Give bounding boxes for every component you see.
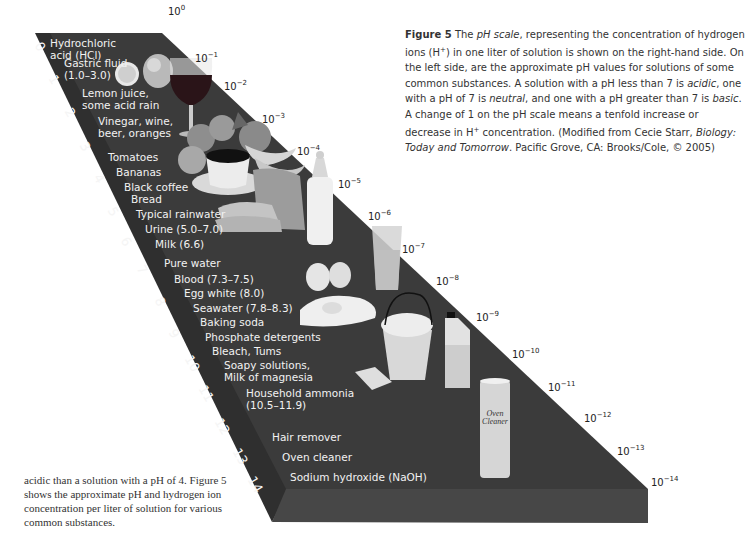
substance-label: Typical rainwater: [136, 208, 225, 220]
substance-label: Soapy solutions,Milk of magnesia: [224, 359, 313, 383]
figure-label: Figure 5: [405, 29, 452, 40]
substance-label: Seawater (7.8–8.3): [193, 302, 293, 314]
h-ion-concentration-label: 10−7: [402, 243, 425, 255]
substance-label: Bleach, Tums: [212, 345, 281, 357]
h-ion-concentration-label: 10−3: [262, 113, 285, 125]
caption-text: The pH scale, representing the concentra…: [405, 29, 745, 153]
h-ion-concentration-label: 10−14: [651, 476, 679, 488]
substance-label: Bananas: [116, 166, 161, 178]
substance-label: Gastric fluid(1.0–3.0): [64, 57, 127, 81]
h-ion-concentration-label: 10−11: [548, 381, 576, 393]
body-paragraph: acidic than a solution with a pH of 4. F…: [24, 473, 254, 529]
substance-label: Phosphate detergents: [205, 331, 321, 343]
substance-label: Sodium hydroxide (NaOH): [290, 471, 427, 483]
h-ion-concentration-label: 10−13: [617, 445, 645, 457]
substance-label: Baking soda: [200, 316, 264, 328]
h-ion-concentration-label: 10−2: [224, 80, 247, 92]
water-glass-icon: [372, 226, 402, 290]
oven-cleaner-can-icon: [480, 378, 510, 478]
substance-label: Bread: [131, 193, 162, 205]
substance-label: Hair remover: [272, 431, 341, 443]
substance-label: Milk (6.6): [155, 238, 204, 250]
figure-caption: Figure 5 The pH scale, representing the …: [405, 27, 747, 156]
h-ion-concentration-label: 10−5: [338, 178, 361, 190]
h-ion-concentration-label: 100: [168, 5, 185, 17]
h-ion-concentration-label: 10−12: [584, 412, 612, 424]
substance-label: Urine (5.0–7.0): [145, 223, 223, 235]
baby-bottle-icon: [307, 151, 333, 245]
h-ion-concentration-label: 10−1: [195, 52, 218, 64]
h-ion-concentration-label: 10−9: [476, 311, 499, 323]
substance-label: Lemon juice,some acid rain: [82, 87, 159, 111]
substance-label: Pure water: [164, 257, 221, 269]
h-ion-concentration-label: 10−8: [436, 275, 459, 287]
h-ion-concentration-label: 10−4: [297, 145, 320, 157]
h-ion-concentration-label: 10−10: [512, 348, 540, 360]
lemon-icon: [143, 54, 173, 88]
h-ion-concentration-label: 10−6: [368, 210, 391, 222]
substance-label: Vinegar, wine,beer, oranges: [98, 115, 173, 139]
oven-can-label: Oven Cleaner: [482, 410, 508, 426]
slab-front-face: [272, 489, 648, 523]
substance-label: Blood (7.3–7.5): [174, 273, 254, 285]
substance-label: Oven cleaner: [282, 451, 352, 463]
substance-label: Black coffee: [124, 181, 188, 193]
substance-label: Tomatoes: [108, 151, 158, 163]
substance-label: Household ammonia(10.5–11.9): [246, 387, 354, 411]
substance-label: Egg white (8.0): [184, 287, 264, 299]
